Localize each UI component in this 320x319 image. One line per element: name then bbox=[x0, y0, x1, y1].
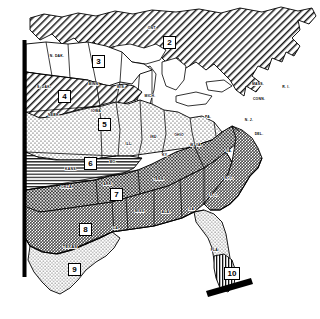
state-label-va: VA. bbox=[226, 150, 232, 153]
state-label-mass: MASS. bbox=[252, 83, 264, 86]
state-label-s-dak: S. DAK. bbox=[37, 86, 51, 89]
state-label-mo: MO. bbox=[109, 161, 116, 164]
state-label-conn: CONN. bbox=[253, 98, 265, 101]
state-label-ala: ALA. bbox=[162, 211, 171, 214]
state-label-nc: N. C. bbox=[225, 177, 234, 180]
zone-marker-7[interactable]: 7 bbox=[110, 188, 123, 201]
state-label-ri: R. I. bbox=[282, 86, 289, 89]
zone-marker-2-label: 2 bbox=[167, 39, 171, 47]
state-label-minn: MINN. bbox=[89, 83, 100, 86]
lake-erie bbox=[176, 92, 212, 106]
state-label-iowa: IOWA bbox=[91, 110, 101, 113]
zone-marker-7-label: 7 bbox=[114, 191, 118, 199]
state-label-ga: GA. bbox=[189, 208, 196, 211]
map-drawing bbox=[0, 0, 320, 319]
state-label-pa: PA. bbox=[205, 116, 211, 119]
state-label-ont: ONT. bbox=[148, 27, 157, 30]
state-label-fla: FLA. bbox=[211, 249, 220, 252]
lake-ontario bbox=[206, 80, 232, 92]
zone-marker-4[interactable]: 4 bbox=[58, 90, 71, 103]
state-label-n-dak: N. DAK. bbox=[50, 55, 64, 58]
state-label-okla: OKLA. bbox=[61, 186, 73, 189]
state-label-kans: KANS. bbox=[65, 168, 77, 171]
state-label-ark: ARK. bbox=[103, 183, 112, 186]
zone-marker-6[interactable]: 6 bbox=[84, 157, 97, 170]
state-label-del: DEL. bbox=[255, 133, 264, 136]
state-label-texas: TEXAS bbox=[63, 245, 78, 249]
state-label-miss: MISS. bbox=[135, 210, 145, 213]
state-label-nebr: NEBR. bbox=[48, 114, 60, 117]
zone-marker-6-label: 6 bbox=[88, 160, 92, 168]
zone-marker-9[interactable]: 9 bbox=[68, 263, 81, 276]
lake-huron bbox=[162, 58, 186, 90]
zone-marker-2[interactable]: 2 bbox=[163, 36, 176, 49]
state-label-ind: IND. bbox=[150, 136, 158, 139]
zone-marker-8[interactable]: 8 bbox=[79, 223, 92, 236]
state-label-ill: ILL. bbox=[125, 143, 132, 146]
state-label-ky: KY. bbox=[162, 154, 168, 157]
zone-marker-4-label: 4 bbox=[62, 93, 66, 101]
zone-marker-5-label: 5 bbox=[102, 121, 106, 129]
zone-marker-3-label: 3 bbox=[96, 58, 100, 66]
state-label-tenn: TENN. bbox=[153, 178, 164, 181]
zone-marker-10-label: 10 bbox=[228, 270, 237, 278]
state-label-ohio: OHIO bbox=[174, 134, 184, 137]
left-edge-cut-bar bbox=[23, 40, 27, 277]
map-figure: 2 3 4 5 6 7 8 9 10 ONT. N. DAK. MINN. S.… bbox=[0, 0, 320, 319]
zone-marker-3[interactable]: 3 bbox=[92, 55, 105, 68]
zone-marker-5[interactable]: 5 bbox=[98, 118, 111, 131]
state-label-nj: N. J. bbox=[245, 119, 253, 122]
zone-marker-8-label: 8 bbox=[83, 226, 87, 234]
state-label-la: LA. bbox=[113, 227, 119, 230]
state-label-sc: S. C. bbox=[210, 194, 219, 197]
state-label-wis: WIS. bbox=[117, 86, 125, 89]
state-label-mich: MICH. bbox=[145, 95, 156, 98]
zone-marker-9-label: 9 bbox=[72, 266, 76, 274]
state-label-w-va: W. VA. bbox=[190, 144, 202, 147]
zone-marker-10[interactable]: 10 bbox=[224, 267, 240, 280]
